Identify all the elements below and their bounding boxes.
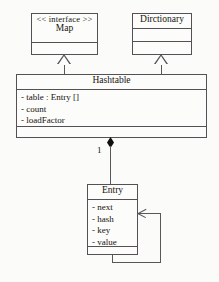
self-association-arrowhead <box>138 213 147 222</box>
class-attributes-compartment-hashtable: - table : Entry [] - count - loadFactor <box>17 90 206 127</box>
generalization-arrow-fill-map <box>58 56 70 65</box>
uml-class-diagram: << interface >> Map Dirctionary Hashtabl… <box>0 0 219 282</box>
attribute-row: - value <box>88 237 137 248</box>
attribute-row: - next <box>88 202 137 214</box>
class-name-compartment-map: << interface >> Map <box>32 14 97 43</box>
class-box-map[interactable]: << interface >> Map <box>31 13 98 55</box>
generalization-arrow-fill-dictionary <box>155 56 167 65</box>
attribute-row: - loadFactor <box>17 115 206 127</box>
class-operations-compartment-hashtable <box>17 127 206 137</box>
class-attributes-compartment-dictionary <box>133 29 191 42</box>
generalization-line-map <box>64 64 65 74</box>
class-name-compartment-entry: Entry <box>88 185 137 200</box>
class-title-hashtable: Hashtable <box>17 76 206 86</box>
self-association-segment-bottom <box>112 262 161 263</box>
multiplicity-label: 1 <box>97 145 102 155</box>
attribute-row: - table : Entry [] <box>17 92 206 104</box>
attribute-row: - count <box>17 104 206 116</box>
attribute-row: - hash <box>88 214 137 226</box>
attribute-row: - key <box>88 225 137 237</box>
class-name-compartment-hashtable: Hashtable <box>17 75 206 90</box>
class-attributes-compartment-entry: - next - hash - key - value <box>88 200 137 247</box>
class-box-dictionary[interactable]: Dirctionary <box>132 13 192 55</box>
class-box-entry[interactable]: Entry - next - hash - key - value <box>87 184 138 255</box>
class-attributes-compartment-map <box>32 43 97 54</box>
class-title-map: Map <box>32 24 97 34</box>
class-name-compartment-dictionary: Dirctionary <box>133 14 191 29</box>
class-box-hashtable[interactable]: Hashtable - table : Entry [] - count - l… <box>16 74 207 138</box>
class-title-dictionary: Dirctionary <box>133 15 191 25</box>
generalization-line-dictionary <box>161 64 162 74</box>
class-operations-compartment-dictionary <box>133 42 191 54</box>
class-title-entry: Entry <box>88 186 137 196</box>
self-association-segment-up <box>160 213 161 262</box>
composition-line <box>110 146 111 184</box>
